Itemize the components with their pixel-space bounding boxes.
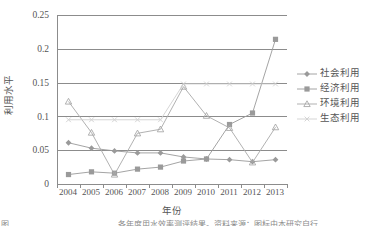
- caption-right-text: 各年度用水效率测评结果。资料来源：图标由本研究自行: [118, 218, 318, 226]
- x-tick-label: 2013: [262, 188, 288, 197]
- caption-strip: 图 各年度用水效率测评结果。资料来源：图标由本研究自行: [0, 218, 367, 226]
- square-marker-icon: [296, 83, 318, 95]
- y-tick-label: 0.1: [37, 113, 49, 123]
- cross-marker-icon: [296, 113, 318, 125]
- y-tick-label: 0.15: [32, 79, 49, 89]
- triangle-marker-icon: [296, 98, 318, 110]
- diamond-marker-icon: [296, 68, 318, 80]
- series-square: [66, 37, 278, 177]
- legend-label: 经济利用: [320, 84, 360, 94]
- legend-item-economic[interactable]: 经济利用: [296, 81, 367, 96]
- legend-label: 生态利用: [320, 114, 360, 124]
- legend-item-ecological[interactable]: 生态利用: [296, 111, 367, 126]
- series-layer: [57, 15, 287, 184]
- plot-area: [57, 15, 287, 184]
- y-axis-tick-labels: 0.25 0.2 0.15 0.1 0.05 0: [0, 0, 53, 226]
- series-triangle: [65, 83, 278, 177]
- legend-label: 环境利用: [320, 99, 360, 109]
- y-tick-label: 0.2: [37, 45, 49, 55]
- legend-item-environmental[interactable]: 环境利用: [296, 96, 367, 111]
- chart-legend: 社会利用 经济利用 环境利用 生态利用: [296, 66, 367, 126]
- legend-item-social[interactable]: 社会利用: [296, 66, 367, 81]
- caption-left-text: 图: [1, 218, 9, 226]
- y-tick-label: 0.25: [32, 11, 49, 21]
- y-tick-label: 0.05: [32, 146, 49, 156]
- y-tick-label: 0: [44, 180, 49, 190]
- x-axis-title: 年份: [0, 203, 344, 217]
- chart-figure: 利用水平 0.25 0.2 0.15 0.1 0.05 0 2004 2005: [0, 0, 367, 226]
- legend-label: 社会利用: [320, 69, 360, 79]
